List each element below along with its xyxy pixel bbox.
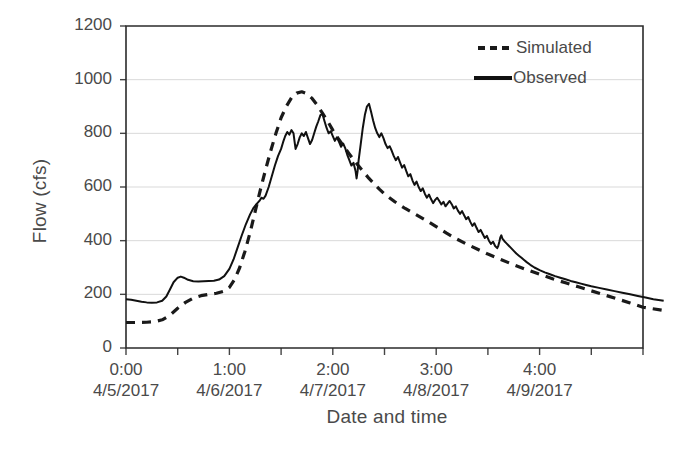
x-tick-time: 0:00 xyxy=(109,360,142,379)
x-tick-label: 4:004/9/2017 xyxy=(485,360,595,401)
x-tick-time: 2:00 xyxy=(316,360,349,379)
x-tick-label: 2:004/7/2017 xyxy=(278,360,388,401)
x-axis-ticks xyxy=(126,348,643,355)
y-tick-label: 400 xyxy=(42,230,112,250)
x-tick-time: 1:00 xyxy=(213,360,246,379)
x-axis-title: Date and time xyxy=(187,406,587,428)
series-line-simulated xyxy=(126,92,664,323)
x-tick-time: 4:00 xyxy=(523,360,556,379)
flow-hydrograph-figure: Flow (cfs) Date and time 020040060080010… xyxy=(0,0,674,456)
x-tick-date: 4/8/2017 xyxy=(381,381,491,401)
y-tick-label: 1200 xyxy=(42,15,112,35)
legend-label-observed: Observed xyxy=(513,68,587,88)
x-tick-date: 4/9/2017 xyxy=(485,381,595,401)
data-series-layer xyxy=(126,92,664,323)
x-tick-time: 3:00 xyxy=(420,360,453,379)
legend-swatches xyxy=(474,48,512,78)
y-axis-ticks xyxy=(120,26,126,348)
y-tick-label: 200 xyxy=(42,283,112,303)
y-tick-label: 0 xyxy=(42,337,112,357)
y-tick-label: 1000 xyxy=(42,69,112,89)
y-tick-label: 800 xyxy=(42,122,112,142)
y-tick-label: 600 xyxy=(42,176,112,196)
x-tick-label: 3:004/8/2017 xyxy=(381,360,491,401)
x-tick-date: 4/6/2017 xyxy=(174,381,284,401)
x-tick-date: 4/7/2017 xyxy=(278,381,388,401)
x-tick-label: 0:004/5/2017 xyxy=(71,360,181,401)
x-tick-label: 1:004/6/2017 xyxy=(174,360,284,401)
legend-label-simulated: Simulated xyxy=(516,38,592,58)
x-tick-date: 4/5/2017 xyxy=(71,381,181,401)
gridlines xyxy=(126,80,643,295)
